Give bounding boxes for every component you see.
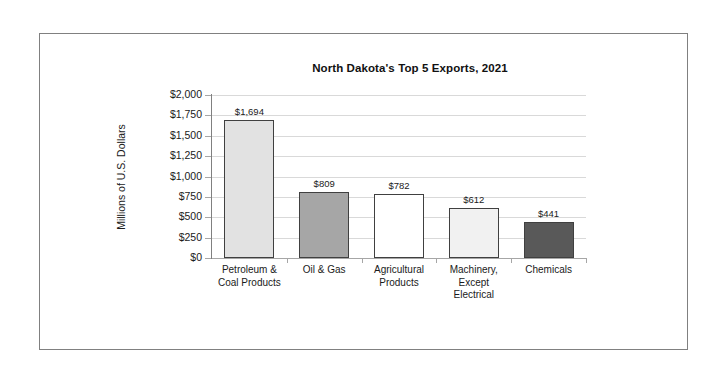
chart-title: North Dakota's Top 5 Exports, 2021 [0, 62, 724, 74]
gridline [212, 95, 586, 96]
plot-area: $1,694$809$782$612$441 [212, 95, 586, 258]
y-axis-tick-labels: $2,000$1,750$1,500$1,250$1,000$750$500$2… [140, 95, 202, 258]
bar-value-label: $809 [287, 178, 361, 189]
x-axis-tick [436, 258, 437, 263]
chart-title-text: North Dakota's Top 5 Exports, 2021 [312, 62, 508, 74]
y-axis-tick [205, 115, 211, 116]
gridline [212, 258, 586, 259]
y-axis-tick [205, 217, 211, 218]
y-axis-tick [205, 177, 211, 178]
y-axis-tick-label: $1,000 [142, 170, 202, 182]
bar[interactable] [374, 194, 424, 258]
y-axis-tick [205, 156, 211, 157]
bar-value-label: $441 [512, 208, 586, 219]
y-axis-tick [205, 95, 211, 96]
y-axis-tick [205, 136, 211, 137]
x-axis-category-line: Except [426, 277, 521, 290]
bar-value-label: $1,694 [212, 106, 286, 117]
x-axis-category-label: Chemicals [501, 264, 596, 277]
x-axis-tick [362, 258, 363, 263]
bar-value-label: $612 [437, 194, 511, 205]
y-axis-tick-label: $500 [142, 210, 202, 222]
y-axis-tick-label: $250 [142, 231, 202, 243]
y-axis-tick-label: $1,500 [142, 129, 202, 141]
y-axis-tick [205, 258, 211, 259]
y-axis-tick-label: $1,250 [142, 149, 202, 161]
y-axis-tick-label: $1,750 [142, 108, 202, 120]
x-axis-category-line: Electrical [426, 289, 521, 302]
x-axis-category-line: Chemicals [501, 264, 596, 277]
bar-value-label: $782 [362, 180, 436, 191]
bar[interactable] [449, 208, 499, 258]
bar[interactable] [299, 192, 349, 258]
y-axis-title-text: Millions of U.S. Dollars [115, 124, 127, 230]
y-axis-tick [205, 197, 211, 198]
x-axis-category-line: Coal Products [202, 277, 297, 290]
y-axis-tick-label: $2,000 [142, 88, 202, 100]
y-axis-title: Millions of U.S. Dollars [112, 95, 130, 258]
y-axis-tick [205, 238, 211, 239]
y-axis-tick-label: $750 [142, 190, 202, 202]
x-axis-tick [586, 258, 587, 263]
bar[interactable] [524, 222, 574, 258]
x-axis-tick [511, 258, 512, 263]
bar[interactable] [224, 120, 274, 258]
y-axis-tick-label: $0 [142, 251, 202, 263]
x-axis-tick [287, 258, 288, 263]
chart-canvas: North Dakota's Top 5 Exports, 2021 Milli… [0, 0, 724, 374]
